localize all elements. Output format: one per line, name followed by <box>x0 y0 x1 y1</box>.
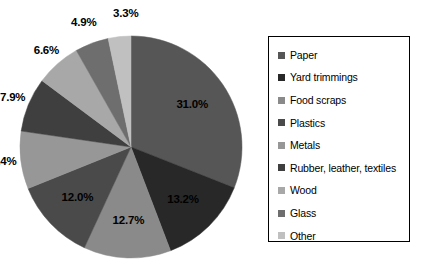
legend-item[interactable]: Rubber, leather, textiles <box>278 157 405 179</box>
legend-item[interactable]: Plastics <box>278 112 405 134</box>
legend-item-label: Rubber, leather, textiles <box>290 163 396 174</box>
pie-slice-label: 6.6% <box>34 45 59 57</box>
legend-swatch-icon <box>278 97 285 104</box>
legend-swatch-icon <box>278 187 285 194</box>
legend-item[interactable]: Wood <box>278 180 405 202</box>
pie-slice-label: 4.9% <box>71 18 96 30</box>
pie-chart-svg <box>0 0 268 268</box>
legend-item[interactable]: Food scraps <box>278 89 405 111</box>
legend-item[interactable]: Yard trimmings <box>278 67 405 89</box>
legend-swatch-icon <box>278 164 285 171</box>
legend-swatch-icon <box>278 232 285 239</box>
legend-item-list: PaperYard trimmingsFood scrapsPlasticsMe… <box>278 44 405 237</box>
legend-item[interactable]: Other <box>278 225 405 247</box>
legend-swatch-icon <box>278 52 285 59</box>
chart-legend: PaperYard trimmingsFood scrapsPlasticsMe… <box>268 36 410 242</box>
pie-slice-label: 12.0% <box>62 192 94 204</box>
legend-item-label: Other <box>290 231 316 242</box>
legend-swatch-icon <box>278 210 285 217</box>
pie-slice-label: 13.2% <box>167 194 199 206</box>
legend-item[interactable]: Paper <box>278 44 405 66</box>
pie-chart-figure: 31.0%13.2%12.7%12.0%8.4%7.9%6.6%4.9%3.3%… <box>0 0 424 268</box>
pie-slice-label: 12.7% <box>113 215 145 227</box>
pie-slice-label: 31.0% <box>176 100 208 112</box>
legend-item-label: Glass <box>290 208 316 219</box>
legend-item[interactable]: Glass <box>278 202 405 224</box>
pie-slice-label: 7.9% <box>0 92 25 104</box>
legend-item-label: Wood <box>290 185 317 196</box>
legend-item-label: Food scraps <box>290 95 346 106</box>
legend-swatch-icon <box>278 74 285 81</box>
legend-item-label: Plastics <box>290 118 325 129</box>
legend-item-label: Paper <box>290 50 317 61</box>
legend-item-label: Metals <box>290 140 320 151</box>
pie-slice-label: 8.4% <box>0 156 17 168</box>
pie-slice-label: 3.3% <box>113 8 138 20</box>
pie-chart-area: 31.0%13.2%12.7%12.0%8.4%7.9%6.6%4.9%3.3% <box>0 0 268 268</box>
legend-swatch-icon <box>278 142 285 149</box>
legend-item[interactable]: Metals <box>278 134 405 156</box>
legend-swatch-icon <box>278 119 285 126</box>
legend-item-label: Yard trimmings <box>290 72 358 83</box>
